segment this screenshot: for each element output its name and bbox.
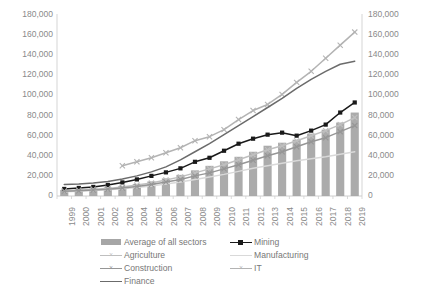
marker-square: [222, 149, 226, 153]
marker-square: [353, 100, 357, 104]
chart-container: 020,00040,00060,00080,000100,000120,0001…: [0, 0, 421, 293]
legend-item-finance[interactable]: Finance: [100, 275, 155, 287]
marker-square: [164, 170, 168, 174]
x-axis-tick-2002: 2002: [111, 207, 120, 226]
bar-2017: [322, 130, 330, 196]
legend-swatch-average-of-all-sectors-icon: [100, 237, 122, 247]
x-axis-tick-2003: 2003: [126, 207, 135, 226]
legend-item-agriculture[interactable]: ×Agriculture: [100, 249, 165, 261]
legend-label-manufacturing: Manufacturing: [254, 251, 308, 260]
x-axis-tick-2005: 2005: [155, 207, 164, 226]
legend-swatch-finance-icon: [100, 276, 122, 286]
legend-item-mining[interactable]: Mining: [230, 236, 279, 248]
bar-series: [60, 113, 359, 196]
x-axis: 1999200020012002200320042005200620072008…: [57, 198, 362, 234]
x-axis-tick-2012: 2012: [257, 207, 266, 226]
x-axis-tick-2009: 2009: [213, 207, 222, 226]
x-axis-tick-2017: 2017: [329, 207, 338, 226]
marker-square: [324, 123, 328, 127]
legend-item-it[interactable]: ×IT: [230, 262, 262, 274]
x-axis-tick-1999: 1999: [68, 207, 77, 226]
x-axis-tick-2019: 2019: [358, 207, 367, 226]
legend-label-average-of-all-sectors: Average of all sectors: [124, 238, 206, 247]
marker-square: [207, 156, 211, 160]
marker-square: [135, 177, 139, 181]
legend-label-agriculture: Agriculture: [124, 251, 165, 260]
legend-item-average-of-all-sectors[interactable]: Average of all sectors: [100, 236, 206, 248]
marker-square: [178, 166, 182, 170]
marker-square: [193, 160, 197, 164]
x-axis-tick-2013: 2013: [271, 207, 280, 226]
x-axis-tick-2011: 2011: [242, 208, 251, 226]
legend-item-construction[interactable]: ×Construction: [100, 262, 172, 274]
legend-swatch-construction-icon: ×: [100, 263, 122, 273]
x-axis-tick-2006: 2006: [170, 207, 179, 226]
marker-square: [338, 110, 342, 114]
marker-square: [309, 129, 313, 133]
x-axis-tick-2004: 2004: [140, 207, 149, 226]
legend-swatch-it-icon: ×: [230, 263, 252, 273]
x-axis-tick-2014: 2014: [286, 207, 295, 226]
legend-swatch-agriculture-icon: ×: [100, 250, 122, 260]
marker-square: [236, 142, 240, 146]
marker-square: [120, 180, 124, 184]
bar-2013: [264, 146, 272, 196]
legend-label-it: IT: [254, 264, 262, 273]
x-axis-tick-2007: 2007: [184, 207, 193, 226]
marker-square: [280, 131, 284, 135]
x-axis-tick-2010: 2010: [228, 207, 237, 226]
x-axis-tick-2000: 2000: [82, 207, 91, 226]
legend-swatch-manufacturing-icon: [230, 250, 252, 260]
chart-legend: Average of all sectorsMining×Agriculture…: [100, 236, 350, 290]
marker-square: [251, 137, 255, 141]
marker-square: [149, 174, 153, 178]
marker-square: [265, 133, 269, 137]
legend-label-finance: Finance: [124, 277, 155, 286]
legend-item-manufacturing[interactable]: Manufacturing: [230, 249, 308, 261]
legend-swatch-mining-icon: [230, 237, 252, 247]
bar-2012: [249, 152, 257, 196]
marker-square: [295, 134, 299, 138]
legend-label-construction: Construction: [124, 264, 172, 273]
x-axis-tick-2008: 2008: [199, 207, 208, 226]
legend-label-mining: Mining: [254, 238, 279, 247]
x-axis-tick-2001: 2001: [97, 207, 106, 226]
x-axis-tick-2018: 2018: [344, 207, 353, 226]
x-axis-tick-2015: 2015: [300, 207, 309, 226]
x-axis-tick-2016: 2016: [315, 207, 324, 226]
